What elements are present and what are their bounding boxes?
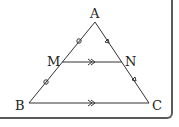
- equal-mark-triangle-icon: [105, 39, 109, 43]
- label-c: C: [152, 98, 162, 113]
- label-m: M: [47, 54, 60, 69]
- label-n: N: [125, 54, 136, 69]
- label-b: B: [15, 98, 25, 113]
- triangle-diagram: A M N B C: [0, 0, 179, 127]
- label-a: A: [89, 6, 100, 21]
